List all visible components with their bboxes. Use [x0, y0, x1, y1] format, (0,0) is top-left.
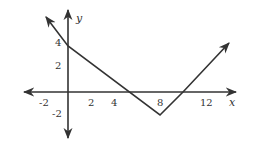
x-tick-label: 12 — [200, 97, 213, 108]
x-tick-label: 2 — [88, 97, 94, 108]
y-tick-label: -2 — [52, 108, 62, 119]
x-tick-label: 8 — [157, 97, 163, 108]
y-tick-label: 4 — [55, 37, 61, 48]
x-axis-label: x — [229, 96, 236, 109]
x-tick-label: -2 — [39, 97, 49, 108]
coordinate-plane-chart: x y -2 2 4 8 12 4 2 -2 — [0, 0, 254, 148]
x-tick-label: 4 — [111, 97, 117, 108]
y-tick-label: 2 — [55, 60, 61, 71]
y-axis-label: y — [75, 12, 83, 25]
